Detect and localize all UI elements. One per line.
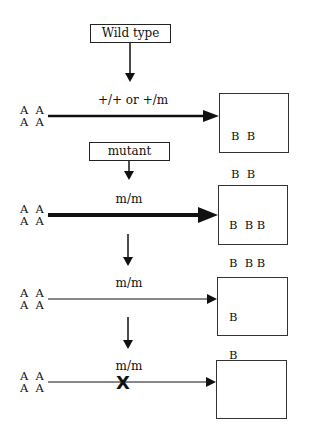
down-arrow-row-4 <box>123 317 133 349</box>
product-box-row-4-empty <box>216 360 287 419</box>
block-x-icon: X <box>116 374 130 392</box>
substrate-line: A A <box>20 215 44 227</box>
substrate-row-4: A A A A <box>20 370 44 394</box>
genotype-label-row-2: m/m <box>104 192 154 206</box>
down-arrow-row-3 <box>123 234 133 266</box>
pathway-arrow-row-2 <box>48 207 218 223</box>
down-arrow-wild-type <box>125 42 135 82</box>
product-box-row-1: B B B B <box>219 93 289 153</box>
mutant-label: mutant <box>89 142 170 161</box>
product-line: B B B <box>229 219 265 232</box>
down-arrow-mutant <box>124 160 134 180</box>
product-line: B B B <box>229 257 265 270</box>
pathway-arrow-row-1 <box>48 110 219 122</box>
product-box-row-2: B B B B B B B B B <box>218 185 288 245</box>
product-box-row-3: B B <box>217 277 288 336</box>
genotype-label-row-3: m/m <box>104 276 154 290</box>
wild-type-label: Wild type <box>90 24 171 43</box>
product-line: B <box>229 311 244 324</box>
substrate-row-3: A A A A <box>20 287 44 311</box>
substrate-line: A A <box>20 116 44 128</box>
substrate-row-2: A A A A <box>20 203 44 227</box>
substrate-line: A A <box>20 299 44 311</box>
product-line: B B <box>231 130 255 143</box>
substrate-row-1: A A A A <box>20 104 44 128</box>
pathway-arrow-row-3 <box>48 294 217 304</box>
pathway-arrow-row-4 <box>48 377 216 387</box>
genotype-label-row-4: m/m <box>104 359 154 373</box>
product-line: B B <box>231 168 255 181</box>
genotype-label-row-1: +/+ or +/m <box>88 93 178 107</box>
substrate-line: A A <box>20 382 44 394</box>
